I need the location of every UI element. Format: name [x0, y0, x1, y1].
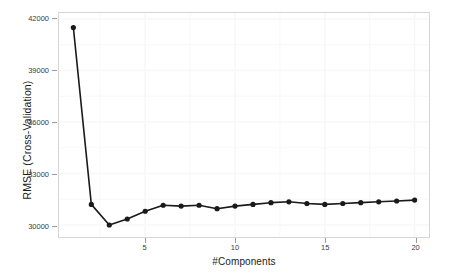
data-point: [340, 201, 345, 206]
data-point: [376, 199, 381, 204]
y-axis-tick-mark: [52, 18, 57, 19]
data-point: [179, 204, 184, 209]
y-axis-tick-label: 30000: [3, 221, 49, 230]
y-axis-tick-label: 33000: [3, 169, 49, 178]
chart-container: RMSE (Cross-Validation) 3000033000360003…: [0, 0, 456, 280]
x-axis-title: #Components: [58, 256, 430, 267]
y-axis-tick-label: 42000: [3, 14, 49, 23]
series-line: [73, 28, 414, 225]
y-axis-tick-mark: [52, 70, 57, 71]
data-point: [161, 203, 166, 208]
data-point: [412, 198, 417, 203]
x-axis-tick-label: 15: [321, 243, 329, 252]
data-point: [322, 202, 327, 207]
y-axis-tick-label: 39000: [3, 66, 49, 75]
data-point: [143, 209, 148, 214]
data-point: [250, 202, 255, 207]
data-point: [358, 200, 363, 205]
data-point: [268, 200, 273, 205]
y-axis-tick-mark: [52, 122, 57, 123]
y-axis-tick-mark: [52, 174, 57, 175]
data-point: [304, 201, 309, 206]
series-point-group: [71, 25, 417, 228]
data-point: [394, 198, 399, 203]
y-axis-tick-mark: [52, 226, 57, 227]
data-point: [286, 199, 291, 204]
y-axis-tick-label: 36000: [3, 117, 49, 126]
x-axis-tick-mark: [145, 238, 146, 243]
x-axis-tick-mark: [416, 238, 417, 243]
data-point: [125, 216, 130, 221]
data-point: [214, 206, 219, 211]
plot-panel: [58, 12, 430, 238]
data-point: [232, 204, 237, 209]
x-axis-tick-mark: [235, 238, 236, 243]
data-point: [71, 25, 76, 30]
x-axis-tick-label: 10: [231, 243, 239, 252]
data-point: [89, 202, 94, 207]
gridlines-major-y: [59, 19, 429, 225]
x-axis-tick-label: 5: [143, 243, 147, 252]
data-point: [107, 222, 112, 227]
x-axis-tick-mark: [325, 238, 326, 243]
data-point: [197, 203, 202, 208]
plot-svg: [59, 13, 429, 237]
x-axis-tick-label: 20: [411, 243, 419, 252]
